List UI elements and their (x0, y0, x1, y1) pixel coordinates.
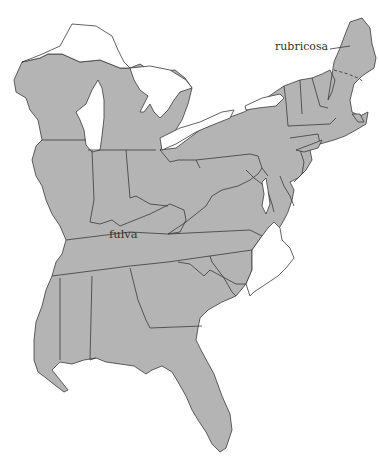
range-map (0, 0, 379, 466)
label-fulva: fulva (109, 227, 138, 241)
range-area-fulva (14, 18, 376, 452)
label-rubricosa: rubricosa (275, 40, 328, 53)
